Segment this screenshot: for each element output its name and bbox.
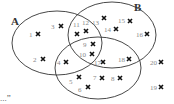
cross-marker-icon (36, 32, 40, 36)
point-number: 2 (33, 56, 37, 64)
point-9: 9 (83, 41, 95, 49)
point-1: 1 (29, 31, 40, 39)
venn-diagram: AB 1234567891011121314151617181920 ...” (0, 0, 174, 104)
point-10: 10 (79, 51, 94, 59)
point-5: 5 (69, 75, 81, 86)
point-4: 4 (57, 59, 68, 67)
cross-marker-icon (118, 76, 122, 80)
point-16: 16 (136, 31, 149, 39)
point-2: 2 (33, 56, 45, 64)
point-number: 6 (78, 86, 82, 94)
point-number: 17 (94, 59, 102, 67)
point-number: 1 (29, 31, 33, 39)
caption-fragment: ...” (0, 93, 11, 103)
point-6: 6 (78, 85, 90, 94)
point-8: 8 (111, 75, 122, 83)
point-20: 20 (150, 59, 163, 67)
point-11: 11 (73, 21, 80, 36)
cross-marker-icon (59, 24, 63, 28)
cross-marker-icon (159, 85, 163, 89)
point-number: 16 (136, 31, 144, 39)
point-7: 7 (93, 74, 104, 82)
cross-marker-icon (77, 75, 81, 79)
point-number: 9 (83, 41, 87, 49)
set-C-ellipse (55, 37, 141, 99)
cross-marker-icon (100, 76, 104, 80)
point-12: 12 (82, 19, 90, 33)
point-number: 10 (79, 51, 87, 59)
set-A-label: A (11, 15, 19, 27)
cross-marker-icon (75, 32, 79, 36)
point-number: 12 (82, 19, 90, 27)
cross-marker-icon (86, 85, 90, 89)
cross-marker-icon (127, 57, 131, 61)
point-3: 3 (51, 23, 63, 31)
point-number: 13 (92, 19, 100, 27)
point-19: 19 (150, 84, 163, 92)
cross-marker-icon (128, 19, 132, 23)
point-number: 14 (104, 26, 112, 34)
cross-marker-icon (84, 29, 88, 33)
point-number: 19 (150, 84, 158, 92)
point-number: 20 (150, 59, 158, 67)
cross-marker-icon (41, 57, 45, 61)
cross-marker-icon (145, 32, 149, 36)
point-number: 5 (69, 78, 73, 86)
point-number: 7 (93, 74, 97, 82)
cross-marker-icon (114, 27, 118, 31)
point-number: 4 (57, 59, 61, 67)
cross-marker-icon (64, 60, 68, 64)
point-15: 15 (118, 17, 132, 25)
point-14: 14 (104, 26, 118, 34)
point-number: 8 (111, 75, 115, 83)
cross-marker-icon (101, 60, 105, 64)
cross-marker-icon (90, 52, 94, 56)
point-number: 18 (118, 56, 126, 64)
cross-marker-icon (91, 42, 95, 46)
cross-marker-icon (102, 16, 106, 20)
point-number: 3 (51, 23, 55, 31)
point-17: 17 (94, 59, 105, 67)
point-number: 11 (73, 21, 80, 29)
point-18: 18 (118, 56, 131, 64)
cross-marker-icon (159, 60, 163, 64)
set-B-label: B (134, 1, 142, 13)
point-number: 15 (118, 17, 126, 25)
